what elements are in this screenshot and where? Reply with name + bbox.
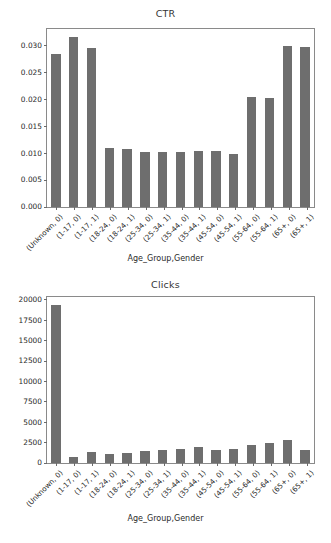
clicks-bar xyxy=(176,449,185,463)
clicks-xtick-mark xyxy=(56,463,57,466)
clicks-ytick-label: 15000 xyxy=(18,337,42,344)
clicks-xtick-mark xyxy=(128,463,129,466)
clicks-bar-slot xyxy=(83,297,101,463)
clicks-bar xyxy=(194,447,203,463)
clicks-ytick-mark xyxy=(44,361,47,362)
ctr-bar-slot xyxy=(296,29,314,207)
clicks-xtick-mark xyxy=(182,463,183,466)
ctr-ytick-label: 0.025 xyxy=(21,69,42,76)
ctr-bar xyxy=(158,152,167,207)
clicks-bar-slot xyxy=(154,297,172,463)
clicks-xtick-mark xyxy=(146,463,147,466)
ctr-bar xyxy=(247,97,256,207)
ctr-ytick-mark xyxy=(44,72,47,73)
ctr-bar xyxy=(140,152,149,207)
clicks-ytick-label: 17500 xyxy=(18,317,42,324)
ctr-bar-slot xyxy=(207,29,225,207)
ctr-bar-slot xyxy=(83,29,101,207)
clicks-ytick-mark xyxy=(44,422,47,423)
ctr-bar xyxy=(194,151,203,207)
ctr-xtick-mark xyxy=(74,207,75,210)
clicks-bar-slot xyxy=(189,297,207,463)
clicks-plot-axes: 02500500075001000012500150001750020000 xyxy=(46,296,315,464)
ctr-bar-slot xyxy=(100,29,118,207)
ctr-chart-title: CTR xyxy=(0,8,331,19)
clicks-xtick-mark xyxy=(199,463,200,466)
ctr-figure: CTR 0.0000.0050.0100.0150.0200.0250.030 … xyxy=(0,0,331,271)
ctr-ytick-label: 0.000 xyxy=(21,203,42,210)
ctr-xtick-mark xyxy=(182,207,183,210)
clicks-bar-slot xyxy=(47,297,65,463)
clicks-bar-slot xyxy=(172,297,190,463)
ctr-bar xyxy=(300,47,309,207)
ctr-bar-slot xyxy=(278,29,296,207)
clicks-ytick-mark xyxy=(44,320,47,321)
clicks-bar-slot xyxy=(278,297,296,463)
ctr-bar xyxy=(211,151,220,207)
clicks-bar xyxy=(283,440,292,463)
clicks-ytick-label: 0 xyxy=(37,459,42,466)
ctr-ytick-mark xyxy=(44,99,47,100)
ctr-ytick-mark xyxy=(44,153,47,154)
ctr-bar xyxy=(51,54,60,207)
clicks-xtick-mark xyxy=(164,463,165,466)
clicks-bar-slot xyxy=(118,297,136,463)
ctr-xtick-mark xyxy=(128,207,129,210)
ctr-xtick-mark xyxy=(217,207,218,210)
ctr-bar-slot xyxy=(118,29,136,207)
clicks-xtick-mark xyxy=(92,463,93,466)
clicks-ytick-mark xyxy=(44,299,47,300)
clicks-xtick-mark xyxy=(217,463,218,466)
clicks-ytick-mark xyxy=(44,401,47,402)
ctr-plot-axes: 0.0000.0050.0100.0150.0200.0250.030 xyxy=(46,28,315,208)
ctr-bars-container xyxy=(47,29,314,207)
ctr-ytick-label: 0.015 xyxy=(21,123,42,130)
clicks-xtick-mark xyxy=(110,463,111,466)
ctr-xtick-mark xyxy=(289,207,290,210)
ctr-bar xyxy=(229,154,238,207)
ctr-bar-slot xyxy=(47,29,65,207)
ctr-bar-slot xyxy=(154,29,172,207)
ctr-bar-slot xyxy=(243,29,261,207)
ctr-xtick-mark xyxy=(146,207,147,210)
clicks-bars-container xyxy=(47,297,314,463)
ctr-bar xyxy=(69,37,78,207)
ctr-xtick-mark xyxy=(164,207,165,210)
ctr-xtick-mark xyxy=(253,207,254,210)
ctr-bar-slot xyxy=(189,29,207,207)
ctr-ytick-mark xyxy=(44,180,47,181)
clicks-ytick-mark xyxy=(44,340,47,341)
clicks-bar xyxy=(140,451,149,463)
ctr-bar-slot xyxy=(136,29,154,207)
clicks-bar-slot xyxy=(207,297,225,463)
ctr-xaxis-title: Age_Group,Gender xyxy=(0,254,331,263)
ctr-bar xyxy=(105,148,114,207)
ctr-ytick-mark xyxy=(44,207,47,208)
clicks-xtick-mark xyxy=(235,463,236,466)
clicks-xtick-mark xyxy=(307,463,308,466)
clicks-bar xyxy=(247,445,256,463)
clicks-bar xyxy=(300,450,309,463)
clicks-bar xyxy=(229,449,238,463)
ctr-ytick-label: 0.010 xyxy=(21,150,42,157)
clicks-bar-slot xyxy=(296,297,314,463)
clicks-bar xyxy=(211,450,220,463)
ctr-bar-slot xyxy=(225,29,243,207)
clicks-xtick-mark xyxy=(253,463,254,466)
clicks-ytick-label: 20000 xyxy=(18,296,42,303)
ctr-ytick-label: 0.030 xyxy=(21,42,42,49)
ctr-xtick-mark xyxy=(199,207,200,210)
ctr-ytick-label: 0.020 xyxy=(21,96,42,103)
clicks-xtick-mark xyxy=(74,463,75,466)
clicks-bar-slot xyxy=(261,297,279,463)
ctr-ytick-mark xyxy=(44,126,47,127)
clicks-ytick-mark xyxy=(44,381,47,382)
clicks-figure: Clicks 025005000750010000125001500017500… xyxy=(0,271,331,543)
ctr-bar xyxy=(122,149,131,207)
clicks-xaxis-title: Age_Group,Gender xyxy=(0,514,331,523)
ctr-xtick-mark xyxy=(110,207,111,210)
clicks-chart-title: Clicks xyxy=(0,279,331,290)
clicks-ytick-label: 7500 xyxy=(23,398,42,405)
clicks-bar-slot xyxy=(136,297,154,463)
clicks-xtick-mark xyxy=(289,463,290,466)
